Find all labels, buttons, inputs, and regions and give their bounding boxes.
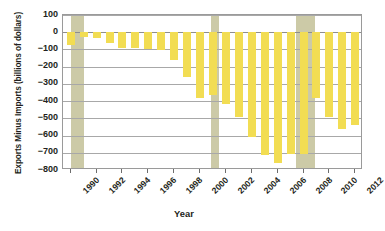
y-tick-label: −200 <box>24 61 58 70</box>
x-tick-mark <box>147 169 148 173</box>
gridline <box>63 136 361 137</box>
x-tick-label: 2006 <box>287 175 308 196</box>
bar <box>312 32 320 98</box>
y-tick-label: 0 <box>24 27 58 36</box>
y-tick-label: −100 <box>24 44 58 53</box>
bar <box>235 32 243 117</box>
bar <box>351 32 359 125</box>
bar <box>80 32 88 37</box>
y-tick-label: −300 <box>24 78 58 87</box>
y-tick-label: −400 <box>24 96 58 105</box>
x-tick-label: 2008 <box>313 175 334 196</box>
bar <box>93 32 101 38</box>
gridline <box>63 153 361 154</box>
bar <box>131 32 139 48</box>
x-tick-mark <box>70 169 71 173</box>
bar <box>222 32 230 104</box>
x-tick-mark <box>303 169 304 173</box>
x-tick-label: 1996 <box>158 175 179 196</box>
y-axis-tick-labels: 1000−100−200−300−400−500−600−700−800 <box>18 0 58 231</box>
bar <box>196 32 204 97</box>
y-tick-label: −600 <box>24 130 58 139</box>
x-tick-label: 1998 <box>184 175 205 196</box>
x-tick-label: 2000 <box>210 175 231 196</box>
y-tick-label: −800 <box>24 165 58 174</box>
gridline <box>63 101 361 102</box>
gridline <box>63 118 361 119</box>
x-tick-label: 2010 <box>339 175 360 196</box>
bar <box>157 32 165 49</box>
x-tick-label: 1990 <box>80 175 101 196</box>
x-tick-mark <box>96 169 97 173</box>
y-tick-label: −700 <box>24 147 58 156</box>
y-tick-label: −500 <box>24 113 58 122</box>
x-tick-mark <box>173 169 174 173</box>
bar <box>248 32 256 137</box>
x-tick-mark <box>277 169 278 173</box>
x-tick-label: 1992 <box>106 175 127 196</box>
bar <box>118 32 126 48</box>
x-axis-title: Year <box>0 208 368 219</box>
x-tick-mark <box>328 169 329 173</box>
x-tick-label: 2004 <box>261 175 282 196</box>
bar <box>209 32 217 95</box>
bar <box>106 32 114 43</box>
x-tick-mark <box>199 169 200 173</box>
bar <box>183 32 191 77</box>
x-tick-mark <box>251 169 252 173</box>
bar <box>170 32 178 60</box>
x-tick-label: 1994 <box>132 175 153 196</box>
x-tick-label: 2002 <box>236 175 257 196</box>
x-tick-mark <box>354 169 355 173</box>
bar <box>300 32 308 154</box>
x-tick-label: 2012 <box>365 175 385 196</box>
bar <box>144 32 152 49</box>
x-tick-mark <box>121 169 122 173</box>
x-axis: 1990199219941996199820002002200420062008… <box>62 169 362 209</box>
bar <box>261 32 269 155</box>
bar <box>274 32 282 163</box>
bar <box>67 32 75 45</box>
bar <box>338 32 346 128</box>
bar <box>287 32 295 153</box>
plot-area <box>62 14 362 169</box>
y-tick-label: 100 <box>24 10 58 19</box>
bar <box>325 32 333 117</box>
gridline <box>63 15 361 16</box>
x-tick-mark <box>225 169 226 173</box>
